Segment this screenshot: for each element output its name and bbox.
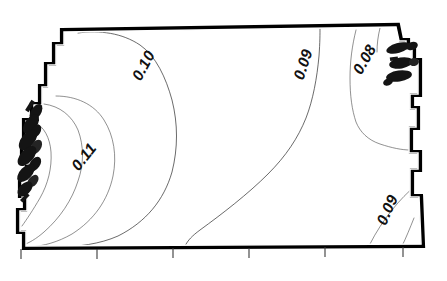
contour-label-011: 0.11 — [68, 140, 100, 174]
contour-figure: 0.10 0.11 0.09 0.08 0.09 — [0, 0, 447, 281]
overlapping-label-cluster-top-right — [382, 40, 420, 87]
contour-label-008: 0.08 — [349, 41, 379, 76]
contour-path-010 — [56, 32, 177, 247]
contour-label-009-bottom: 0.09 — [373, 192, 401, 227]
contour-label-010: 0.10 — [128, 48, 158, 83]
contour-path-011 — [30, 96, 115, 247]
contour-path-009-tail — [402, 218, 414, 246]
contour-label-009-mid: 0.09 — [290, 47, 316, 82]
contour-path-008-stub — [377, 28, 380, 52]
contour-label-group: 0.10 0.11 0.09 0.08 0.09 — [68, 41, 401, 227]
